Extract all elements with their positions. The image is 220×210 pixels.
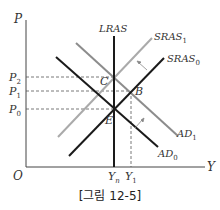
p1-label: P1 xyxy=(8,85,21,100)
y1-label: Y1 xyxy=(125,170,137,185)
output-labels: Yn Y1 xyxy=(108,170,137,185)
ad1-curve xyxy=(76,43,178,136)
ad1-label: AD1 xyxy=(176,128,197,142)
yn-label: Yn xyxy=(108,170,120,185)
x-axis-label: Y xyxy=(207,160,216,174)
sras1-label: SRAS1 xyxy=(154,31,187,45)
origin-label: O xyxy=(13,169,23,183)
sras-shift-arrowhead xyxy=(137,61,141,64)
point-c-label: C xyxy=(100,75,109,88)
ad0-label: AD0 xyxy=(157,148,178,162)
sras0-label: SRAS0 xyxy=(167,53,200,67)
point-e-label: E xyxy=(104,114,113,127)
price-labels: P2 P1 P0 xyxy=(8,71,21,118)
p2-label: P2 xyxy=(8,71,21,86)
sras0-curve xyxy=(69,58,164,156)
p0-label: P0 xyxy=(8,103,21,118)
ad-shift-arrowhead xyxy=(141,118,144,122)
guide-lines xyxy=(26,77,131,167)
y-axis-label: P xyxy=(13,12,23,26)
lras-label: LRAS xyxy=(98,23,127,34)
point-b-label: B xyxy=(134,85,143,98)
figure-caption: [그림 12-5] xyxy=(0,186,220,203)
ad-as-diagram: P Y O P2 P1 P0 Yn Y1 xyxy=(0,0,220,210)
